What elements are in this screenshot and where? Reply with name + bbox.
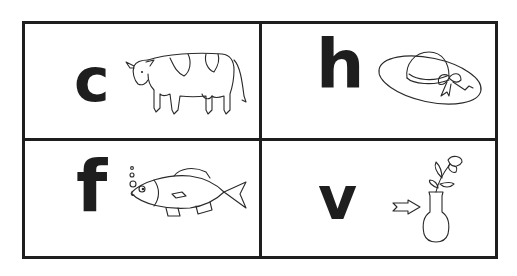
fish-icon bbox=[126, 164, 250, 228]
letter-h: h bbox=[316, 31, 364, 99]
letter-f: f bbox=[76, 150, 107, 222]
letter-v: v bbox=[318, 168, 357, 228]
letter-c: c bbox=[74, 50, 110, 110]
hat-icon bbox=[377, 50, 487, 110]
horizontal-divider bbox=[22, 138, 498, 141]
vase-with-flower-icon bbox=[416, 154, 466, 248]
cow-icon bbox=[126, 50, 248, 126]
